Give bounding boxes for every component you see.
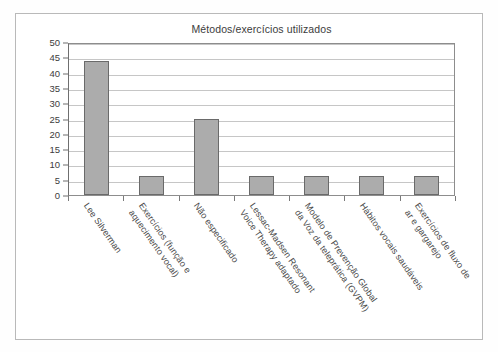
y-axis-tick-label: 25 xyxy=(49,115,60,125)
bar-slot xyxy=(179,44,234,195)
y-axis-tick-label: 15 xyxy=(49,145,60,155)
y-axis-tick-label: 0 xyxy=(55,191,60,201)
x-axis-tick-label: Exercícios (função e aquecimento vocal) xyxy=(126,201,193,283)
bar[interactable] xyxy=(249,176,273,195)
plot-area xyxy=(68,43,455,196)
bar[interactable] xyxy=(304,176,328,195)
y-axis-tick-label: 10 xyxy=(49,161,60,171)
y-axis: 05101520253035404550 xyxy=(40,43,68,196)
bar-series xyxy=(69,44,454,195)
y-axis-tick-label: 50 xyxy=(49,38,60,48)
bar[interactable] xyxy=(359,176,383,195)
bar-slot xyxy=(399,44,454,195)
figure: Métodos/exercícios utilizados 0510152025… xyxy=(0,0,498,352)
y-axis-tick-label: 35 xyxy=(49,84,60,94)
x-axis-labels: Lee SilvermanExercícios (função e aqueci… xyxy=(68,201,468,331)
x-axis-tick-label: Não especificado xyxy=(191,201,241,265)
x-axis-tick-label: Lee Silverman xyxy=(80,201,123,256)
y-axis-tick-label: 40 xyxy=(49,69,60,79)
bar[interactable] xyxy=(414,176,438,195)
bar[interactable] xyxy=(139,176,163,195)
y-axis-tick-label: 5 xyxy=(55,176,60,186)
bar-slot xyxy=(69,44,124,195)
y-axis-tick-label: 20 xyxy=(49,130,60,140)
bar-slot xyxy=(124,44,179,195)
bar-slot xyxy=(234,44,289,195)
y-axis-tick-label: 45 xyxy=(49,54,60,64)
chart-title: Métodos/exercícios utilizados xyxy=(68,23,455,35)
bar-slot xyxy=(344,44,399,195)
bar[interactable] xyxy=(194,119,218,196)
bar-slot xyxy=(289,44,344,195)
y-axis-tick-label: 30 xyxy=(49,99,60,109)
bar[interactable] xyxy=(84,61,108,195)
